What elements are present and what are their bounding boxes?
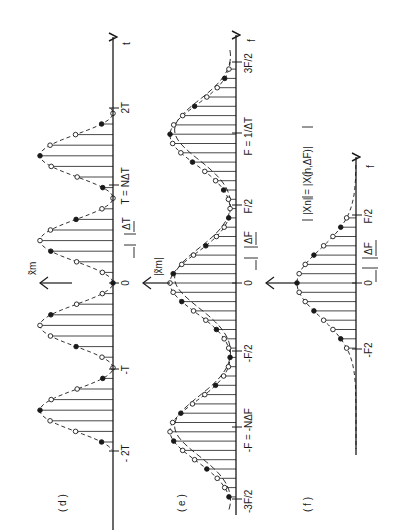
tick-label: T = NΔT <box>120 167 131 204</box>
y-axis-arrow <box>143 277 170 289</box>
tick-label: F/2 <box>243 199 254 214</box>
magnitude-equation: |Xn| = |X(n,ΔF)| <box>302 127 313 220</box>
tick-label: 0 <box>363 280 374 286</box>
dft-sampling-figure: 2TT = NΔT0-T- 2T x̃m ΔT t ( d ) 3F/2F = … <box>0 0 399 531</box>
envelope-curve-aliased <box>175 50 231 512</box>
delta-f-label: ΔF <box>243 231 254 244</box>
tick-label: F = 1/ΔT <box>243 117 254 156</box>
axis-ticks: 3F/2F = 1/ΔTF/20-F/2-F = -NΔF-3F/2 <box>232 53 254 513</box>
y-axis-arrow <box>266 277 297 289</box>
tick-label: -F/2 <box>243 344 254 362</box>
sample-stems <box>170 69 236 497</box>
sample-stems <box>297 218 356 348</box>
delta-f-marker: ΔF <box>362 240 378 282</box>
delta-f-label: ΔF <box>363 242 374 255</box>
y-axis-label: |x̃m| <box>153 257 164 276</box>
tick-label: 0 <box>243 280 254 286</box>
equation-label: |Xn| = |X(n,ΔF)| <box>302 147 313 215</box>
delta-t-label: ΔT <box>121 217 132 230</box>
tick-label: 3F/2 <box>243 53 254 73</box>
tick-label: 0 <box>120 280 131 286</box>
panel-f-dft-magnitude: F/20-F2 |Xn| = |X(n,ΔF)| ΔF f ( f ) <box>266 127 378 512</box>
panel-e-periodic-spectrum: 3F/2F = 1/ΔTF/20-F/2-F = -NΔF-3F/2 |x̃m|… <box>143 35 258 515</box>
tick-label: - 2T <box>120 444 131 462</box>
tick-label: -3F/2 <box>243 489 254 513</box>
axis-ticks: F/20-F2 <box>352 209 374 358</box>
sample-stems <box>40 113 113 442</box>
delta-f-marker: ΔF <box>243 231 258 270</box>
sample-points <box>38 111 116 444</box>
envelope-curve-shifted <box>170 62 230 498</box>
f-axis-name: f <box>246 39 257 42</box>
y-axis-label: x̃m <box>27 262 38 276</box>
tick-label: F/2 <box>363 209 374 224</box>
panel-label-e: ( e ) <box>176 494 187 512</box>
tick-label: -T <box>120 365 131 374</box>
y-axis-arrow <box>40 277 72 289</box>
t-axis-name: t <box>121 42 132 45</box>
tick-label: -F2 <box>363 342 374 357</box>
f-axis-name: f <box>365 165 376 168</box>
panel-label-f: ( f ) <box>302 497 313 512</box>
tick-label: 2T <box>120 102 131 114</box>
delta-t-marker: ΔT <box>121 217 136 258</box>
panel-label-d: ( d ) <box>57 494 68 512</box>
tick-label: -F = -NΔF <box>243 408 254 452</box>
panel-d-time-samples: 2TT = NΔT0-T- 2T x̃m ΔT t ( d ) <box>27 37 136 530</box>
